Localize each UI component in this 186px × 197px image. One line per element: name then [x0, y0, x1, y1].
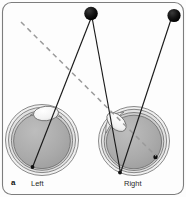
left-eye-vitreous [14, 113, 71, 168]
left-eye-group [6, 105, 79, 176]
fixation-target-near-dot [84, 7, 98, 21]
left-eye-label: Left [31, 179, 44, 188]
fixation-target-far-dot [167, 9, 180, 22]
right-eye-group [99, 107, 170, 176]
panel-letter-label: a [11, 178, 16, 187]
binocular-vision-diagram: a Left Right [0, 0, 186, 197]
right-eye-label: Right [124, 179, 142, 188]
diagram-canvas: a Left Right [0, 0, 186, 197]
left-eye-foveal-image-point [31, 165, 35, 169]
